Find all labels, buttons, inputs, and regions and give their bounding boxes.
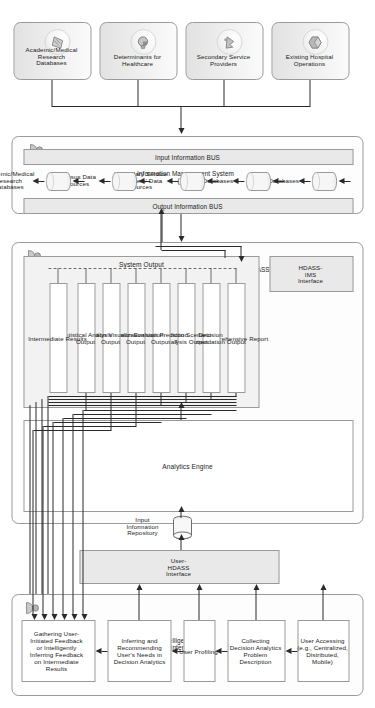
hdass-ims-interface-label: HDASS- IMS Interface xyxy=(275,263,345,287)
arrow-source-to-ims xyxy=(179,128,185,134)
arrow-iui-3 xyxy=(171,648,177,654)
arrow-ui-to-repo xyxy=(179,534,185,540)
source-label: Academic/Medical Research Databases xyxy=(12,47,90,67)
source-label: Secondary Service Providers xyxy=(184,51,262,71)
iui-step[interactable]: User Accessing (e.g., Centralized, Distr… xyxy=(297,620,349,682)
arrow-iui-1 xyxy=(285,648,291,654)
rail-stub-4 xyxy=(160,268,161,283)
iui-chain-4 xyxy=(101,651,107,652)
architecture-diagram: Existing Hospital Operations Secondary S… xyxy=(0,0,375,708)
iui-step-label: Inferring and Recommending User's Needs … xyxy=(107,637,171,667)
iui-step[interactable]: Inferring and Recommending User's Needs … xyxy=(107,620,171,682)
iui-step-label: Collecting Decision Analytics Problem De… xyxy=(223,637,287,667)
output-label: Intermediate Results xyxy=(1,286,113,392)
database-cylinder-icon xyxy=(179,171,205,192)
iui-chain-3 xyxy=(177,651,183,652)
iui-step[interactable]: User Profiling xyxy=(183,620,215,682)
connector-source-to-ims xyxy=(180,106,181,128)
database-cylinder-icon xyxy=(111,171,137,192)
output-box[interactable]: Intermediate Results xyxy=(49,283,67,393)
arrow-bus-out-2 xyxy=(232,178,238,184)
rail-stub-1 xyxy=(235,268,236,283)
arrow-bus-in-3 xyxy=(206,178,212,184)
arrow-bus-out-3 xyxy=(166,178,172,184)
arrow-bus-in-2 xyxy=(272,178,278,184)
arrow-iui-2 xyxy=(215,648,221,654)
analytics-engine-label: Analytics Engine xyxy=(152,460,222,474)
database-cylinder-icon xyxy=(245,171,271,192)
iui-step-label: User Accessing (e.g., Centralized, Distr… xyxy=(290,637,354,667)
user-hdass-interface[interactable]: User- HDASS Interface xyxy=(79,550,279,584)
rail-stub-3 xyxy=(185,268,186,283)
arrow-bus-out-1 xyxy=(298,178,304,184)
connector-ims-to-hdass xyxy=(180,214,181,236)
connector-ui-to-repo xyxy=(180,540,181,550)
database-cylinder-icon xyxy=(45,171,71,192)
output-bus-label: Output Information BUS xyxy=(29,201,345,213)
connector-source-4 xyxy=(51,80,52,106)
output-selector-rail xyxy=(48,268,236,269)
input-repository-label: Input Information Repository xyxy=(107,516,177,538)
rail-stub-5 xyxy=(135,268,136,283)
arrow-bus-out-4 xyxy=(98,178,104,184)
ims-output-bus: Output Information BUS xyxy=(23,198,353,214)
source-card-academic-medical-research-databases[interactable]: Academic/Medical Research Databases xyxy=(13,22,91,80)
connector-source-3 xyxy=(137,80,138,106)
iui-step[interactable]: Gathering User- Initiated Feedback or In… xyxy=(21,620,95,682)
source-card-secondary-service-providers[interactable]: Secondary Service Providers xyxy=(185,22,263,80)
arrow-iui-4 xyxy=(95,648,101,654)
source-card-existing-hospital-operations[interactable]: Existing Hospital Operations xyxy=(271,22,349,80)
source-label: Existing Hospital Operations xyxy=(270,51,348,71)
rail-stub-8 xyxy=(57,268,58,283)
arrow-repo-to-engine xyxy=(179,506,185,512)
connector-repo-to-engine xyxy=(180,512,181,518)
rail-stub-6 xyxy=(110,268,111,283)
ims-input-bus: Input Information BUS xyxy=(23,149,353,165)
arrow-bus-in-4 xyxy=(138,178,144,184)
arrow-bus-in-5 xyxy=(72,178,78,184)
arrow-bus-out-5 xyxy=(32,178,38,184)
iui-step-label: Gathering User- Initiated Feedback or In… xyxy=(20,633,92,671)
arrow-bus-in-1 xyxy=(338,178,344,184)
rail-stub-7 xyxy=(85,268,86,283)
iui-step[interactable]: Collecting Decision Analytics Problem De… xyxy=(227,620,285,682)
iui-chain-2 xyxy=(221,651,227,652)
rail-stub-2 xyxy=(210,268,211,283)
arrow-engine-to-output xyxy=(179,402,185,408)
iui-chain-1 xyxy=(291,651,297,652)
source-label: Determinants for Healthcare xyxy=(98,51,176,71)
system-output-title: System Output xyxy=(106,258,176,272)
connector-source-2 xyxy=(223,80,224,106)
source-card-determinants-for-healthcare[interactable]: Determinants for Healthcare xyxy=(99,22,177,80)
input-bus-label: Input Information BUS xyxy=(29,152,345,164)
database-cylinder-icon xyxy=(311,171,337,192)
connector-source-1 xyxy=(309,80,310,106)
user-hdass-interface-label: User- HDASS Interface xyxy=(143,556,213,580)
